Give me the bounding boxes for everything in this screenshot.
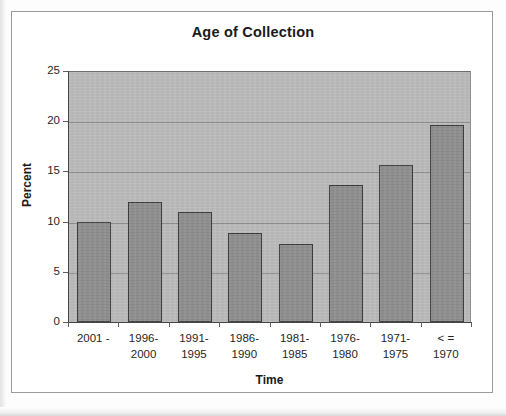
- x-axis-category-label: 2001 -: [68, 331, 118, 347]
- x-axis-category-label-line: < =: [421, 331, 471, 347]
- x-axis-category-label-line: 1991-: [169, 331, 219, 347]
- bar: [279, 244, 313, 322]
- y-axis-tick-10: [63, 222, 68, 223]
- bar: [128, 202, 162, 322]
- x-axis-title: Time: [68, 373, 471, 387]
- x-axis-category-label-line: 1985: [270, 347, 320, 363]
- x-axis-category-label: 1976-1980: [320, 331, 370, 362]
- plot-area: [68, 71, 471, 322]
- scan-edge-left: [0, 0, 7, 416]
- x-axis-tick: [118, 322, 119, 327]
- bar: [77, 222, 111, 322]
- x-axis-tick: [169, 322, 170, 327]
- x-axis-category-label-line: 1976-: [320, 331, 370, 347]
- y-axis-tick-label-25: 25: [32, 65, 60, 76]
- x-axis-category-label: < =1970: [421, 331, 471, 362]
- y-axis-tick-label-5: 5: [32, 266, 60, 277]
- x-axis-category-label: 1986-1990: [219, 331, 269, 362]
- x-axis-tick: [421, 322, 422, 327]
- y-axis-tick-labels: 2520151050: [26, 0, 60, 416]
- x-axis-category-label-line: 1975: [370, 347, 420, 363]
- x-axis-category-label-line: 1986-: [219, 331, 269, 347]
- x-axis-category-label-line: 1990: [219, 347, 269, 363]
- y-axis-tick-label-0: 0: [32, 316, 60, 327]
- x-axis-tick: [320, 322, 321, 327]
- y-axis-tick-label-20: 20: [32, 115, 60, 126]
- bar: [228, 233, 262, 322]
- bar: [379, 165, 413, 322]
- bar: [430, 125, 464, 322]
- bar: [178, 212, 212, 322]
- x-axis-tick: [68, 322, 69, 327]
- x-axis-category-label: 1996-2000: [118, 331, 168, 362]
- bar: [329, 185, 363, 322]
- x-axis-category-label: 1981-1985: [270, 331, 320, 362]
- y-axis-tick-20: [63, 121, 68, 122]
- x-axis-tick: [471, 322, 472, 327]
- y-axis-tick-25: [63, 71, 68, 72]
- x-axis-tick: [219, 322, 220, 327]
- figure-page: Age of Collection Percent 2520151050 200…: [0, 0, 506, 416]
- x-axis-category-label-line: 2000: [118, 347, 168, 363]
- x-axis-category-label: 1971-1975: [370, 331, 420, 362]
- x-axis-category-label-line: 1971-: [370, 331, 420, 347]
- y-axis-line: [68, 71, 69, 323]
- x-axis-tick: [370, 322, 371, 327]
- chart-title: Age of Collection: [0, 24, 506, 40]
- y-axis-tick-label-10: 10: [32, 216, 60, 227]
- x-axis-category-label-line: 1996-: [118, 331, 168, 347]
- scan-edge-bottom: [0, 407, 506, 416]
- x-axis-tick: [270, 322, 271, 327]
- y-axis-tick-label-15: 15: [32, 165, 60, 176]
- y-axis-tick-15: [63, 171, 68, 172]
- x-axis-category-label-line: 2001 -: [68, 331, 118, 347]
- x-axis-category-label: 1991-1995: [169, 331, 219, 362]
- x-axis-category-label-line: 1995: [169, 347, 219, 363]
- x-axis-category-label-line: 1970: [421, 347, 471, 363]
- y-axis-tick-5: [63, 272, 68, 273]
- x-axis-category-label-line: 1981-: [270, 331, 320, 347]
- x-axis-category-label-line: 1980: [320, 347, 370, 363]
- gridline-20: [69, 122, 470, 123]
- y-axis-tick-0: [63, 322, 68, 323]
